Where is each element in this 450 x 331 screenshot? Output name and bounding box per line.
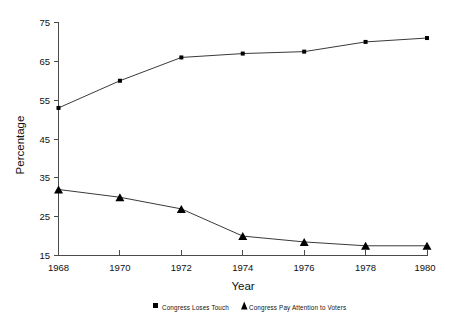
series-markers-loses-touch (57, 36, 430, 110)
y-tick-label-35: 35 (39, 172, 50, 183)
data-point-triangle (177, 205, 186, 213)
series-congress-loses-touch (57, 36, 430, 110)
y-axis-title: Percentage (14, 116, 26, 175)
legend-label-loses-touch: Congress Loses Touch (162, 304, 229, 312)
data-point-square (118, 79, 122, 83)
y-tick-label-75: 75 (39, 17, 50, 28)
series-markers-pay-attention (54, 185, 432, 249)
line-chart: 75 65 55 45 35 25 15 Percentage 1968 197… (0, 0, 450, 331)
y-tick-label-65: 65 (39, 56, 50, 67)
series-line-loses-touch (59, 38, 428, 108)
x-tick-label-1968: 1968 (48, 262, 69, 273)
y-axis-ticks (54, 23, 59, 256)
x-tick-label-1970: 1970 (109, 262, 130, 273)
y-tick-label-15: 15 (39, 250, 50, 261)
y-tick-label-55: 55 (39, 95, 50, 106)
triangle-marker-icon (241, 302, 248, 310)
data-point-square (241, 52, 245, 56)
x-axis-ticks (59, 250, 428, 256)
data-point-square (57, 106, 61, 110)
data-point-square (302, 50, 306, 54)
square-marker-icon (153, 303, 158, 308)
data-point-square (179, 55, 183, 59)
legend-label-pay-attention: Congress Pay Attention to Voters (249, 304, 346, 312)
x-axis-title: Year (231, 280, 254, 292)
data-point-square (364, 40, 368, 44)
y-tick-label-45: 45 (39, 134, 50, 145)
chart-canvas: 75 65 55 45 35 25 15 Percentage 1968 197… (0, 0, 450, 331)
x-tick-label-1974: 1974 (232, 262, 253, 273)
x-tick-label-1972: 1972 (171, 262, 192, 273)
series-congress-pay-attention (54, 185, 432, 249)
x-tick-label-1978: 1978 (355, 262, 376, 273)
y-tick-label-25: 25 (39, 211, 50, 222)
data-point-square (425, 36, 429, 40)
x-tick-label-1976: 1976 (294, 262, 315, 273)
x-tick-label-1980: 1980 (414, 262, 435, 273)
chart-legend: Congress Loses Touch Congress Pay Attent… (153, 302, 346, 312)
